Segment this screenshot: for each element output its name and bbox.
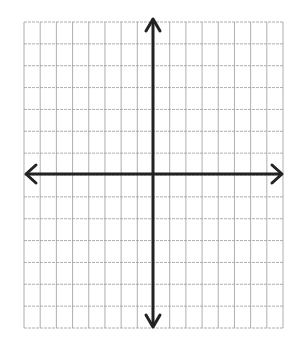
coordinate-plane [0,0,296,351]
axes [26,19,282,327]
